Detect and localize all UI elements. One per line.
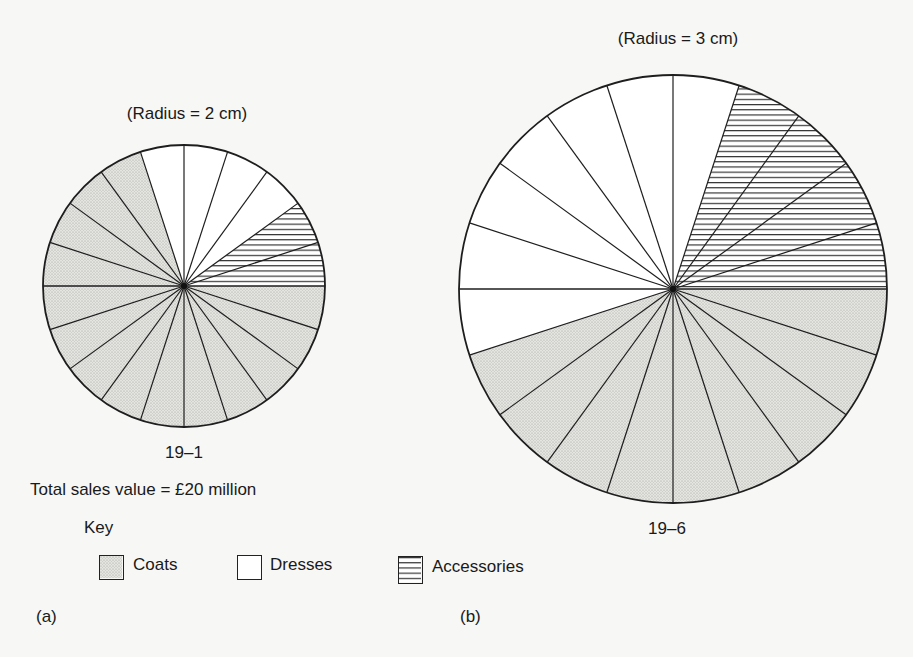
pie-center	[670, 286, 676, 292]
pie-chart-19-6	[459, 75, 887, 503]
coats-swatch-icon	[99, 555, 124, 580]
pie-chart-19-1	[43, 145, 325, 427]
dresses-swatch-icon	[237, 555, 262, 580]
pie-a-radius-title: (Radius = 2 cm)	[127, 104, 247, 124]
legend-label-accessories: Accessories	[432, 557, 524, 577]
pie-a-caption: 19–1	[165, 443, 203, 463]
panel-label-b: (b)	[460, 607, 481, 627]
panel-label-a: (a)	[36, 607, 57, 627]
pie-b-caption: 19–6	[648, 519, 686, 539]
accessories-swatch-icon	[398, 556, 423, 584]
legend-label-dresses: Dresses	[270, 555, 332, 575]
pie-b-radius-title: (Radius = 3 cm)	[618, 29, 738, 49]
legend-label-coats: Coats	[133, 555, 177, 575]
key-title: Key	[84, 518, 113, 538]
total-sales-note: Total sales value = £20 million	[30, 480, 256, 500]
pie-center	[181, 283, 187, 289]
